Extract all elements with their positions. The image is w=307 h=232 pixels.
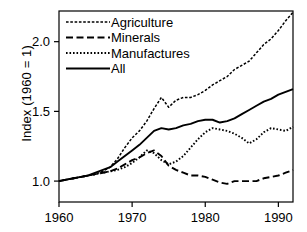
legend-label-all: All <box>111 61 126 76</box>
legend-label-minerals: Minerals <box>111 30 161 45</box>
x-tick-label: 1960 <box>45 210 74 225</box>
x-axis-ticks: 1960197019801990 <box>45 202 293 225</box>
y-tick-label: 2.0 <box>32 34 50 49</box>
chart-legend: AgricultureMineralsManufacturesAll <box>66 15 190 77</box>
chart-figure: Index (1960 = 1) 1960197019801990 1.01.5… <box>0 0 307 232</box>
series-line-minerals <box>59 150 293 183</box>
line-chart-plot: 1960197019801990 1.01.52.0 AgricultureMi… <box>0 0 307 232</box>
x-tick-label: 1970 <box>118 210 147 225</box>
series-line-all <box>59 89 293 181</box>
legend-label-manufactures: Manufactures <box>111 46 190 61</box>
y-tick-label: 1.5 <box>32 104 50 119</box>
x-tick-label: 1980 <box>191 210 220 225</box>
x-tick-label: 1990 <box>264 210 293 225</box>
series-line-agriculture <box>59 12 293 181</box>
y-axis-ticks: 1.01.52.0 <box>32 34 59 188</box>
series-layer <box>59 12 293 183</box>
y-tick-label: 1.0 <box>32 174 50 189</box>
legend-label-agriculture: Agriculture <box>111 15 173 30</box>
